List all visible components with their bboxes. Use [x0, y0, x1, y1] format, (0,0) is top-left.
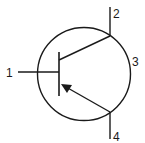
collector-line	[59, 36, 110, 60]
terminal-4-label: 4	[113, 130, 120, 143]
terminal-3-label: 3	[132, 55, 139, 69]
transistor-symbol: 1 2 3 4	[0, 0, 145, 143]
emitter-line	[66, 87, 110, 112]
transistor-envelope-circle	[38, 28, 131, 121]
terminal-2-label: 2	[113, 7, 120, 21]
emitter-arrow-icon	[61, 84, 72, 93]
terminal-1-label: 1	[6, 66, 13, 80]
